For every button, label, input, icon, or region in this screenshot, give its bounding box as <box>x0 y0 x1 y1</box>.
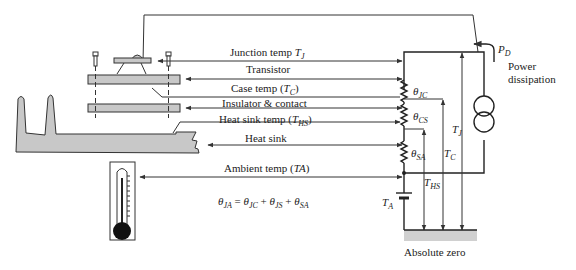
label-theta-jc: θJC <box>413 85 428 100</box>
label-theta-sa: θSA <box>411 147 425 162</box>
label-pd: PD <box>497 43 511 58</box>
label-ths: THS <box>424 176 440 191</box>
thermal-circuit <box>396 52 494 230</box>
label-insulator: Insulator & contact <box>222 97 307 109</box>
label-heatsink-temp: Heat sink temp (THS) <box>219 113 312 128</box>
label-tc: TC <box>444 147 456 162</box>
label-heatsink: Heat sink <box>245 132 287 144</box>
thermometer-icon <box>110 162 135 240</box>
label-tj: TJ <box>452 123 462 138</box>
equation: θJA = θJC + θJS + θSA <box>218 195 309 210</box>
label-ta: TA <box>382 196 393 211</box>
heat-sink <box>16 95 400 153</box>
label-absolute-zero: Absolute zero <box>404 246 466 258</box>
vertical-arrows <box>424 53 462 230</box>
absolute-zero-ground <box>404 230 477 241</box>
resistor-sa-icon <box>401 141 407 163</box>
label-case-temp: Case temp (TC) <box>231 82 299 97</box>
case-plate <box>88 75 180 84</box>
label-dissipation: dissipation <box>508 73 556 85</box>
current-source-icon <box>474 96 494 116</box>
thermal-diagram: Junction temp TJ Transistor Case temp (T… <box>0 0 576 270</box>
label-power: Power <box>508 60 536 72</box>
power-dissipation-pointer <box>143 15 478 63</box>
label-ambient-temp: Ambient temp (TA) <box>224 162 310 175</box>
insulator-plate <box>88 104 180 112</box>
label-junction-temp: Junction temp TJ <box>230 46 305 61</box>
label-theta-cs: θCS <box>413 110 428 125</box>
label-transistor: Transistor <box>246 63 291 75</box>
transistor-chip <box>114 58 151 63</box>
resistor-cs-icon <box>401 104 407 126</box>
